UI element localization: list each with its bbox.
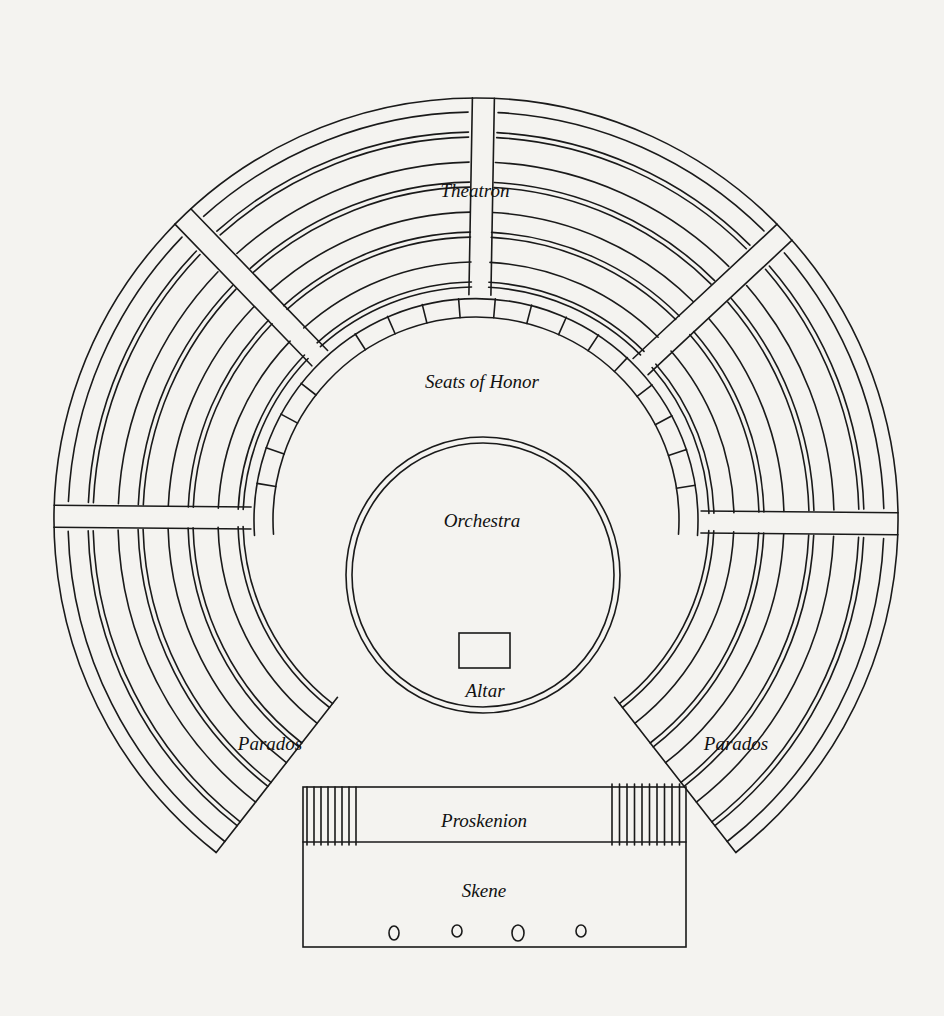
proskenion-columns-left — [307, 787, 356, 845]
theatron-seating — [54, 98, 898, 853]
label-seats-of-honor: Seats of Honor — [425, 371, 539, 393]
label-skene: Skene — [462, 880, 506, 902]
seats-of-honor-row — [254, 299, 698, 536]
label-parados-right: Parados — [704, 733, 768, 755]
skene-doors — [389, 925, 586, 941]
theatre-plan-diagram: Theatron Seats of Honor Orchestra Altar … — [0, 0, 944, 1016]
theatre-plan-drawing — [0, 0, 944, 1016]
label-proskenion: Proskenion — [441, 810, 527, 832]
orchestra-circle — [346, 437, 620, 713]
label-theatron: Theatron — [441, 180, 510, 202]
proskenion-columns-right — [612, 784, 680, 845]
stage-building — [303, 784, 686, 947]
label-parados-left: Parados — [238, 733, 302, 755]
label-orchestra: Orchestra — [444, 510, 520, 532]
label-altar: Altar — [465, 680, 504, 702]
altar-shape — [459, 633, 510, 668]
